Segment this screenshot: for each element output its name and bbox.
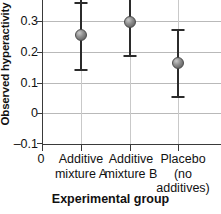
error-bar-cap-lower-a [75,69,88,71]
chart-figure: Observed hyperactivity 0.3 0.2 0.1 0 –0.… [0,0,221,214]
x-tick-mark-a [81,145,82,151]
x-axis-title: Experimental group [0,192,221,206]
plot-area [42,0,221,145]
gridline-0.2 [42,52,221,53]
data-point-b [124,16,136,28]
data-point-a [75,29,87,41]
error-bar-cap-lower-b [124,55,137,57]
data-point-c [172,57,184,69]
y-tick-label: 0.3 [10,15,38,27]
error-bar-cap-upper-a [75,2,88,4]
y-tick-mark [37,21,43,22]
error-bar-b [129,0,131,57]
error-bar-cap-upper-c [172,29,185,31]
y-tick-mark [37,52,43,53]
error-bar-cap-lower-c [172,96,185,98]
y-tick-mark [37,113,43,114]
gridline-0 [42,113,221,114]
y-tick-label: –0.1 [10,138,38,150]
y-axis-tick-labels: 0.3 0.2 0.1 0 –0.1 [10,0,38,160]
y-tick-label: 0.2 [10,46,38,58]
x-tick-label-c: Placebo (no additives) [148,152,218,196]
x-tick-label-c-line2: (no [148,167,218,182]
gridline-0.1 [42,83,221,84]
x-tick-mark-c [178,145,179,151]
y-tick-mark [37,83,43,84]
x-tick-mark-origin [42,145,43,151]
y-tick-label: 0.1 [10,77,38,89]
y-tick-label: 0 [10,107,38,119]
x-axis-line [42,144,221,145]
x-tick-label-c-line1: Placebo [148,152,218,167]
x-tick-mark-b [130,145,131,151]
